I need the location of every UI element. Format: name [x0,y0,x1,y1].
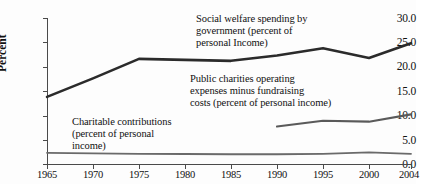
series-line-charitable-contributions [47,152,411,154]
annotation-public-charities: Public charities operating expenses minu… [190,73,331,110]
series-line-public-charities [277,114,411,126]
annotation-social-welfare: Social welfare spending by government (p… [196,13,307,50]
annotation-charitable-contributions: Charitable contributions (percent of per… [72,116,171,153]
